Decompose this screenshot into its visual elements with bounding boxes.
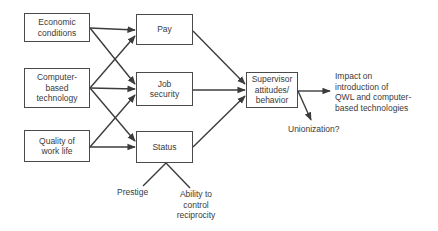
node-supervisor-attitudes-behavior: Supervisor attitudes/ behavior <box>246 72 298 108</box>
status-component-prestige: Prestige <box>117 187 148 198</box>
component-text: Ability to <box>172 189 220 200</box>
node-text: behavior <box>252 95 293 106</box>
edge-status-prestige <box>143 163 166 186</box>
node-text: Status <box>152 142 176 153</box>
node-quality-of-work-life: Quality of work life <box>24 130 90 162</box>
node-text: work life <box>39 146 75 157</box>
outcome-text: based technologies <box>335 103 411 114</box>
node-text: Pay <box>157 24 172 35</box>
edge-status-supervisor <box>193 96 245 147</box>
edge-economic-pay <box>90 28 135 30</box>
node-text: conditions <box>38 28 76 39</box>
edge-quality-jobsecurity <box>90 95 135 147</box>
edge-computer-pay <box>90 36 135 88</box>
edge-status-ability <box>166 163 190 188</box>
edge-economic-jobsecurity <box>90 28 135 84</box>
node-text: Computer- <box>36 72 77 83</box>
node-text: attitudes/ <box>252 85 293 96</box>
node-text: security <box>150 89 179 100</box>
outcome-text: introduction of <box>335 82 411 93</box>
node-text: Quality of <box>39 136 75 147</box>
outcome-text: Impact on <box>335 71 411 82</box>
outcome-impact: Impact on introduction of QWL and comput… <box>335 71 411 113</box>
node-pay: Pay <box>136 14 193 45</box>
node-text: based <box>36 83 77 94</box>
edge-pay-supervisor <box>193 31 245 84</box>
outcome-text: QWL and computer- <box>335 92 411 103</box>
node-status: Status <box>136 131 193 163</box>
node-job-security: Job security <box>136 72 193 106</box>
component-text: control <box>172 200 220 211</box>
node-economic-conditions: Economic conditions <box>24 13 90 42</box>
diagram: Economic conditions Computer- based tech… <box>0 0 438 231</box>
node-text: Economic <box>38 17 76 28</box>
edge-computer-jobsecurity <box>90 88 135 89</box>
node-text: Supervisor <box>252 74 293 85</box>
node-text: Job <box>150 79 179 90</box>
node-text: technology <box>36 93 77 104</box>
edge-supervisor-unionization <box>298 91 311 120</box>
edge-computer-status <box>90 88 135 141</box>
outcome-unionization: Unionization? <box>288 124 340 135</box>
node-computer-based-technology: Computer- based technology <box>24 68 90 108</box>
component-text: reciprocity <box>172 210 220 221</box>
status-component-ability: Ability to control reciprocity <box>172 189 220 221</box>
